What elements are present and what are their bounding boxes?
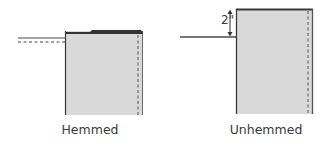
hemmed-fabric <box>65 31 143 115</box>
hemmed-panel-figure <box>18 30 143 115</box>
unhemmed-label: Unhemmed <box>230 122 303 137</box>
dimension-label: 2" <box>221 13 234 27</box>
hemmed-label: Hemmed <box>61 122 118 137</box>
unhemmed-fabric <box>236 9 313 114</box>
unhemmed-panel-figure <box>180 9 313 114</box>
hemmed-top-fold <box>65 30 143 34</box>
